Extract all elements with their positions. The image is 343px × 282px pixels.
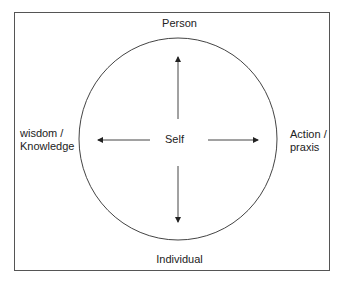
label-action-praxis: Action / praxis: [290, 128, 335, 154]
label-wisdom-knowledge: wisdom / Knowledge: [20, 127, 80, 153]
label-knowledge: Knowledge: [20, 140, 80, 153]
label-person: Person: [0, 17, 343, 30]
label-individual: Individual: [0, 253, 343, 266]
label-wisdom: wisdom /: [20, 127, 80, 140]
label-praxis: praxis: [290, 141, 335, 154]
label-action: Action /: [290, 128, 335, 141]
label-self: Self: [165, 133, 184, 146]
